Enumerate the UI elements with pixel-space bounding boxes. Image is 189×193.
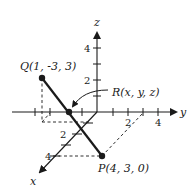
point-p-label: P(4, 3, 0): [97, 162, 149, 175]
z-tick-label-2: 2: [84, 75, 90, 86]
z-axis: 4 2 z: [84, 16, 101, 112]
point-q-label: Q(1, -3, 3): [20, 60, 76, 73]
y-tick-label-4: 4: [155, 117, 161, 128]
x-tick-label-4: 4: [45, 151, 51, 162]
point-p: [99, 153, 105, 159]
r-pointer-arrow: [73, 90, 108, 106]
x-axis: 2 4 x: [30, 112, 97, 188]
point-r: [66, 109, 72, 115]
z-tick-label-4: 4: [84, 43, 90, 54]
z-axis-label: z: [93, 16, 100, 29]
coordinate-diagram: 2 4 y 4 2 z 2 4 x: [0, 0, 189, 193]
x-tick-label-2: 2: [60, 129, 66, 140]
point-r-label: R(x, y, z): [111, 86, 160, 99]
x-axis-label: x: [30, 175, 37, 188]
y-axis-label: y: [179, 106, 187, 119]
point-q: [39, 75, 45, 81]
y-axis: 2 4 y: [12, 106, 187, 128]
